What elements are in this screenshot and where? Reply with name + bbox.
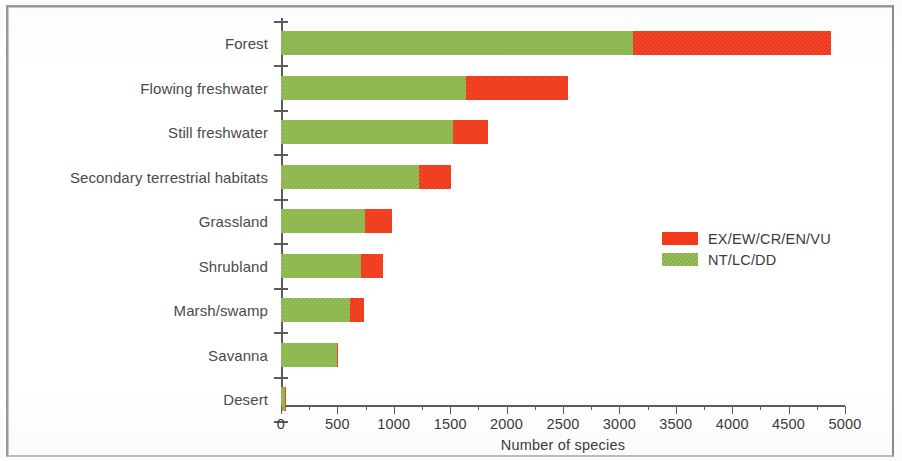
x-axis-tick-label: 2000 (490, 416, 523, 432)
bar-segment-not-threatened (281, 120, 453, 144)
x-axis-tick-minor (422, 406, 423, 410)
x-axis-tick-label: 4000 (716, 416, 749, 432)
x-axis-title: Number of species (281, 437, 845, 453)
x-axis-tick-major (394, 406, 395, 414)
bar-segment-threatened (633, 31, 832, 55)
bar-still-freshwater (281, 120, 488, 144)
x-axis-tick-label: 0 (277, 416, 285, 432)
bar-segment-not-threatened (281, 254, 361, 278)
bar-segment-threatened (365, 209, 392, 233)
y-axis-tick (274, 288, 288, 290)
category-label: Forest (225, 35, 268, 52)
legend-swatch-green-icon (662, 253, 698, 266)
category-label: Still freshwater (168, 124, 268, 141)
bar-segment-not-threatened (281, 343, 337, 367)
y-axis-tick (274, 243, 288, 245)
bar-segment-threatened (361, 254, 383, 278)
bar-segment-not-threatened (281, 76, 466, 100)
x-axis-tick-major (507, 406, 508, 414)
bar-segment-not-threatened (281, 165, 419, 189)
legend-label-not-threatened: NT/LC/DD (708, 252, 776, 268)
x-axis-tick-minor (817, 406, 818, 410)
y-axis-tick (274, 65, 288, 67)
bar-shrubland (281, 254, 383, 278)
bar-segment-threatened (285, 387, 286, 411)
bar-segment-threatened (466, 76, 568, 100)
category-label: Desert (223, 391, 268, 408)
x-axis-tick-label: 3000 (603, 416, 636, 432)
x-axis-tick-label: 1500 (434, 416, 467, 432)
legend-item-not-threatened: NT/LC/DD (662, 249, 831, 270)
x-axis-tick-minor (366, 406, 367, 410)
category-label: Shrubland (199, 257, 268, 274)
y-axis-tick (274, 110, 288, 112)
legend-item-threatened: EX/EW/CR/EN/VU (662, 228, 831, 249)
category-label: Grassland (199, 213, 268, 230)
bar-segment-threatened (453, 120, 488, 144)
x-axis-tick-label: 4500 (772, 416, 805, 432)
x-axis-tick-minor (535, 406, 536, 410)
chart-legend: EX/EW/CR/EN/VU NT/LC/DD (662, 228, 831, 270)
chart-figure: ForestFlowing freshwaterStill freshwater… (0, 0, 902, 461)
bar-savanna (281, 343, 338, 367)
x-axis-tick-major (337, 406, 338, 414)
x-axis-tick-minor (309, 406, 310, 410)
x-axis-tick-major (563, 406, 564, 414)
x-axis-tick-minor (478, 406, 479, 410)
bar-flowing-freshwater (281, 76, 568, 100)
x-axis-tick-minor (704, 406, 705, 410)
x-axis-tick-label: 2500 (546, 416, 579, 432)
x-axis-tick-minor (591, 406, 592, 410)
category-label: Flowing freshwater (140, 79, 268, 96)
x-axis-tick-major (676, 406, 677, 414)
x-axis-tick-label: 1000 (377, 416, 410, 432)
x-axis-tick-label: 5000 (828, 416, 861, 432)
bar-segment-threatened (350, 298, 364, 322)
category-label: Savanna (208, 346, 268, 363)
bar-segment-not-threatened (281, 298, 350, 322)
bar-segment-not-threatened (281, 31, 633, 55)
category-label: Secondary terrestrial habitats (70, 168, 268, 185)
bar-segment-not-threatened (281, 209, 365, 233)
x-axis-tick-label: 3500 (659, 416, 692, 432)
category-label: Marsh/swamp (174, 302, 268, 319)
bar-grassland (281, 209, 392, 233)
y-axis-tick (274, 377, 288, 379)
x-axis-tick-minor (648, 406, 649, 410)
x-axis-tick-minor (760, 406, 761, 410)
bar-segment-threatened (419, 165, 451, 189)
legend-label-threatened: EX/EW/CR/EN/VU (708, 231, 831, 247)
bar-secondary-terrestrial-habitats (281, 165, 451, 189)
x-axis-tick-major (281, 406, 282, 414)
y-axis-tick (274, 199, 288, 201)
bar-forest (281, 31, 831, 55)
y-axis-tick (274, 154, 288, 156)
bar-segment-threatened (337, 343, 338, 367)
x-axis-tick-major (732, 406, 733, 414)
y-axis-tick (274, 332, 288, 334)
x-axis-tick-major (619, 406, 620, 414)
x-axis-tick-major (450, 406, 451, 414)
x-axis-tick-label: 500 (325, 416, 350, 432)
x-axis-tick-major (845, 406, 846, 414)
bar-marsh-swamp (281, 298, 364, 322)
legend-swatch-red-icon (662, 232, 698, 245)
x-axis-tick-major (789, 406, 790, 414)
y-axis-tick (274, 21, 288, 23)
